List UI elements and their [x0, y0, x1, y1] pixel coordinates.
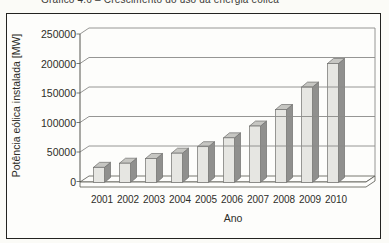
- x-tick-label: 2010: [320, 194, 352, 205]
- x-axis-title: Ano: [203, 212, 263, 224]
- figure-caption-text: Gráfico 4.6 – Crescimento do uso da ener…: [41, 0, 279, 5]
- scanned-figure-page: Gráfico 4.6 – Crescimento do uso da ener…: [0, 0, 389, 243]
- y-tick-label: 100000: [30, 117, 76, 129]
- y-tick-label: 150000: [30, 87, 76, 99]
- y-axis-title: Potência eólica instalada [MW]: [10, 26, 23, 186]
- figure-caption: Gráfico 4.6 – Crescimento do uso da ener…: [41, 0, 361, 6]
- y-tick-label: 200000: [30, 58, 76, 70]
- y-tick-label: 250000: [30, 28, 76, 40]
- y-tick-label: 50000: [30, 146, 76, 158]
- y-tick-label: 0: [30, 176, 76, 188]
